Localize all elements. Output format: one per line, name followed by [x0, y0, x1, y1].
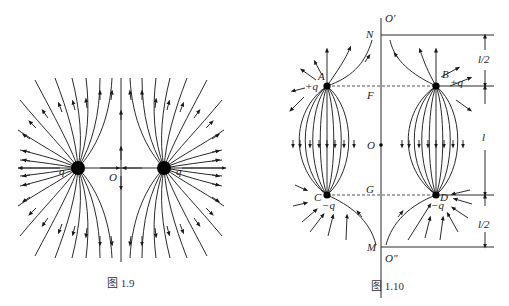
charge-a	[323, 82, 330, 89]
point-g-label: G	[366, 183, 374, 195]
charge-left-label: q	[59, 165, 65, 177]
diagram-canvas: q q O 图 1.9 l/2 l l/2	[0, 0, 509, 306]
charge-left	[71, 161, 85, 175]
charge-b	[432, 82, 439, 89]
figure-1-9-caption: 图 1.9	[107, 277, 135, 289]
charge-d	[432, 191, 439, 198]
dim-bottom-label: l/2	[478, 218, 490, 230]
dimension-markers: l/2 l l/2	[478, 36, 490, 246]
field-lines-a-c	[291, 40, 376, 245]
charge-c-value: −q	[322, 199, 335, 211]
axis-bottom-label: O″	[385, 252, 398, 264]
charge-right-label: q	[176, 165, 182, 177]
field-lines-b-d	[386, 40, 472, 245]
dim-top-label: l/2	[478, 53, 490, 65]
charge-b-value: +q	[450, 76, 463, 88]
point-f-label: F	[366, 89, 374, 101]
dim-middle-label: l	[482, 131, 485, 143]
charge-b-label: B	[442, 68, 449, 80]
charge-c	[323, 191, 330, 198]
point-o-dot	[379, 143, 383, 147]
figure-1-10: l/2 l l/2	[291, 12, 494, 298]
charge-a-label: A	[317, 70, 325, 82]
charge-right	[157, 161, 171, 175]
charge-d-value: −q	[431, 199, 444, 211]
charge-a-value: +q	[305, 80, 318, 92]
point-o-label: O	[367, 139, 375, 151]
charge-c-label: C	[314, 191, 322, 203]
figure-1-10-caption: 图 1.10	[371, 280, 405, 292]
figure-1-9: q q O 图 1.9	[18, 78, 226, 289]
point-n-label: N	[365, 28, 374, 40]
midpoint-label: O	[109, 171, 117, 183]
point-m-label: M	[366, 241, 377, 253]
axis-top-label: O′	[385, 12, 396, 24]
